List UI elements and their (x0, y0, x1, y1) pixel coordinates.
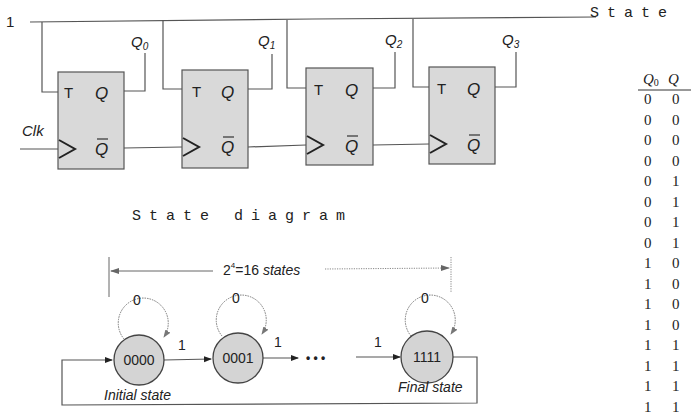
t-flipflop-0: T Q Q (58, 72, 124, 169)
table-cell: 1 (672, 173, 680, 189)
table-row: 00 (644, 153, 680, 169)
self-loop-1111: 0 (405, 290, 455, 336)
table-cell: 0 (644, 132, 652, 148)
table-cell: 0 (672, 153, 680, 169)
qbar-wire-1 (248, 145, 306, 147)
table-cell: 1 (672, 214, 680, 230)
span-label: 24=16 states (223, 261, 300, 278)
q-wire-3 (495, 52, 516, 87)
table-cell: 1 (644, 317, 652, 333)
table-cell: 0 (644, 112, 652, 128)
table-cell: 0 (672, 91, 680, 107)
table-cell: 1 (672, 337, 680, 353)
self-loop-label: 0 (421, 290, 429, 306)
table-row: 01 (644, 194, 680, 210)
table-row: 00 (644, 132, 680, 148)
state-table-title: State (590, 5, 675, 22)
qbar-label: Q (467, 136, 480, 155)
transition-label: 1 (274, 334, 282, 350)
table-cell: 1 (644, 378, 652, 394)
table-row: 01 (644, 173, 680, 189)
table-cell: 1 (644, 337, 652, 353)
header-q1: Q (668, 71, 679, 87)
q-label: Q (221, 83, 234, 102)
transition-label: 1 (374, 334, 382, 350)
state-name: 0001 (222, 350, 253, 366)
table-cell: 1 (672, 194, 680, 210)
table-cell: 1 (644, 255, 652, 271)
table-row: 11 (644, 337, 680, 353)
q-wire-2 (373, 52, 395, 88)
self-loop-label: 0 (133, 292, 141, 308)
table-row: 01 (644, 214, 680, 230)
table-row: 10 (644, 255, 680, 271)
table-row: 10 (644, 276, 680, 292)
table-row: 10 (644, 296, 680, 312)
clock-label: Clk (22, 122, 45, 139)
self-loop-label: 0 (232, 290, 240, 306)
counter-figure: 1 Clk Q0 Q1 Q2 Q3 T Q Q (0, 0, 691, 420)
counter-circuit: 1 Clk Q0 Q1 Q2 Q3 T Q Q (6, 13, 596, 169)
q-wire-0 (124, 53, 145, 91)
table-cell: 1 (644, 276, 652, 292)
initial-state-caption: Initial state (104, 387, 171, 403)
t-input-label: T (192, 83, 201, 100)
t-wire-2 (287, 20, 306, 88)
input-one-label: 1 (6, 13, 14, 30)
qbar-label: Q (345, 137, 358, 156)
state-0001: 0001 (213, 333, 263, 383)
table-cell: 0 (644, 91, 652, 107)
table-cell: 0 (644, 235, 652, 251)
state-diagram: State diagram 24=16 states 0 0 0 1 1 • •… (62, 208, 477, 405)
table-row: 01 (644, 235, 680, 251)
t-flipflop-1: T Q Q (182, 70, 248, 168)
qbar-label: Q (221, 138, 234, 157)
state-1111: 1111 Final state (398, 331, 463, 395)
q-label: Q (95, 84, 108, 103)
self-loop-0000: 0 (118, 292, 168, 339)
table-cell: 0 (672, 276, 680, 292)
q-wire-1 (248, 54, 272, 89)
table-row: 00 (644, 112, 680, 128)
table-cell: 0 (644, 153, 652, 169)
table-cell: 0 (672, 112, 680, 128)
table-cell: 1 (644, 399, 652, 415)
table-cell: 0 (672, 255, 680, 271)
q-label: Q (467, 80, 480, 99)
transition-0000-0001 (164, 359, 211, 360)
table-cell: 0 (672, 317, 680, 333)
table-cell: 1 (672, 399, 680, 415)
span-right-arrow (325, 268, 449, 269)
state-diagram-title: State diagram (132, 208, 353, 225)
table-rows: 00000000010101011010101011111111 (644, 91, 680, 415)
table-row: 11 (644, 358, 680, 374)
q1-output-label: Q1 (258, 32, 275, 51)
self-loop-0001: 0 (216, 290, 266, 336)
table-cell: 1 (644, 296, 652, 312)
table-cell: 0 (644, 194, 652, 210)
qbar-label: Q (95, 140, 108, 159)
table-row: 10 (644, 317, 680, 333)
table-row: 00 (644, 91, 680, 107)
ellipsis: • • • (306, 351, 325, 365)
table-row: 11 (644, 399, 680, 415)
table-cell: 1 (672, 235, 680, 251)
qbar-wire-0 (124, 147, 182, 148)
t-wire-0 (42, 22, 58, 92)
t-input-label: T (437, 80, 446, 97)
table-cell: 1 (672, 378, 680, 394)
t-input-label: T (64, 84, 73, 101)
table-cell: 1 (672, 358, 680, 374)
table-cell: 0 (644, 173, 652, 189)
state-name: 1111 (413, 349, 441, 365)
t-flipflop-2: T Q Q (306, 68, 373, 165)
state-0000: 0000 Initial state (104, 335, 171, 403)
table-row: 11 (644, 378, 680, 394)
logic-one-bus (30, 17, 596, 22)
state-name: 0000 (123, 352, 154, 368)
table-cell: 0 (644, 214, 652, 230)
qbar-wire-2 (373, 144, 429, 145)
q3-output-label: Q3 (502, 31, 520, 50)
header-q0: Q0 (643, 71, 659, 88)
t-input-label: T (314, 81, 323, 98)
